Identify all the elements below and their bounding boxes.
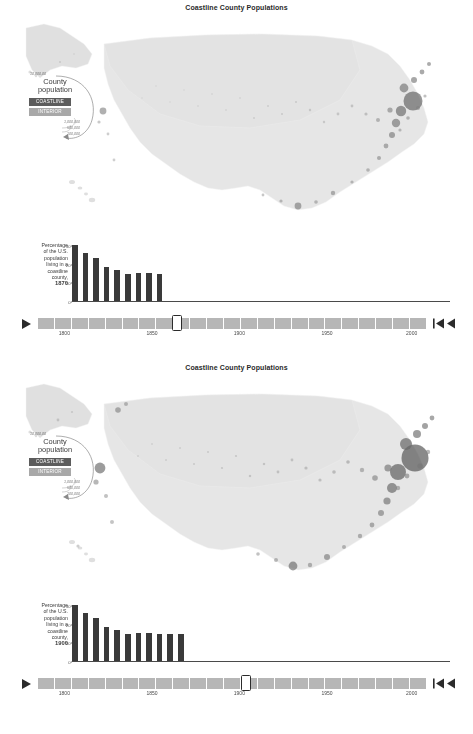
map-legend-2: 10,000,00 County population COASTLINE IN…: [22, 428, 108, 514]
bar-chart-1: Percentage of the U.S. population living…: [20, 240, 220, 312]
timeline-slider-2[interactable]: 18001850190019502000: [20, 676, 473, 702]
bar[interactable]: [72, 245, 78, 302]
y-axis-tick: [71, 624, 73, 625]
caption-line: county,: [52, 634, 68, 640]
timeline-segment[interactable]: [325, 678, 341, 689]
timeline-track-1[interactable]: [38, 318, 426, 329]
legend-swatch-coastline[interactable]: COASTLINE: [29, 458, 71, 466]
bar[interactable]: [157, 274, 163, 302]
bar[interactable]: [104, 267, 110, 302]
chart-plot-1: 0102030: [72, 240, 220, 310]
legend-swatch-interior[interactable]: INTERIOR: [29, 108, 71, 116]
timeline-segment[interactable]: [258, 318, 274, 329]
timeline-segment[interactable]: [224, 678, 240, 689]
timeline-segment[interactable]: [72, 318, 88, 329]
bar[interactable]: [104, 627, 110, 662]
bar[interactable]: [93, 258, 99, 302]
timeline-segment[interactable]: [156, 678, 172, 689]
timeline-segment[interactable]: [55, 678, 71, 689]
timeline-segment[interactable]: [275, 318, 291, 329]
timeline-segment[interactable]: [309, 678, 325, 689]
timeline-year-label: 1900: [234, 690, 245, 696]
bar[interactable]: [167, 634, 173, 662]
timeline-track-2[interactable]: [38, 678, 426, 689]
timeline-segment[interactable]: [89, 318, 105, 329]
bar-chart-2: Percentage of the U.S. population living…: [20, 600, 220, 672]
timeline-segment[interactable]: [325, 318, 341, 329]
play-icon[interactable]: [20, 318, 32, 330]
play-icon[interactable]: [20, 678, 32, 690]
timeline-segment[interactable]: [309, 318, 325, 329]
timeline-segment[interactable]: [224, 318, 240, 329]
timeline-segment[interactable]: [123, 678, 139, 689]
caption-line: Percentage: [41, 602, 68, 608]
timeline-segment[interactable]: [359, 678, 375, 689]
legend-scale-value-3: 100,000: [67, 132, 80, 136]
timeline-segment[interactable]: [106, 678, 122, 689]
bar[interactable]: [83, 253, 89, 302]
timeline-segment[interactable]: [410, 678, 426, 689]
legend-max-value: 10,000,00: [30, 432, 46, 436]
timeline-segment[interactable]: [393, 318, 409, 329]
legend-swatch-coastline[interactable]: COASTLINE: [29, 98, 71, 106]
bar[interactable]: [178, 634, 184, 662]
bar[interactable]: [136, 633, 142, 662]
timeline-segment[interactable]: [190, 318, 206, 329]
timeline-handle-2[interactable]: [241, 675, 251, 691]
bar[interactable]: [157, 634, 163, 662]
timeline-segment[interactable]: [55, 318, 71, 329]
timeline-segment[interactable]: [207, 678, 223, 689]
y-axis-tick: [71, 662, 73, 663]
legend-scale-value-2: 500,000: [67, 126, 80, 130]
timeline-segment[interactable]: [139, 318, 155, 329]
caption-line: living in a: [46, 261, 68, 267]
timeline-segment[interactable]: [123, 318, 139, 329]
timeline-segment[interactable]: [258, 678, 274, 689]
visualization-panel-1: Coastline County Populations: [0, 0, 473, 357]
timeline-segment[interactable]: [376, 678, 392, 689]
bar[interactable]: [125, 274, 131, 303]
timeline-segment[interactable]: [342, 678, 358, 689]
legend-swatch-interior[interactable]: INTERIOR: [29, 468, 71, 476]
timeline-segment[interactable]: [342, 318, 358, 329]
timeline-segment[interactable]: [89, 678, 105, 689]
timeline-segment[interactable]: [156, 318, 172, 329]
timeline-segment[interactable]: [393, 678, 409, 689]
timeline-segment[interactable]: [376, 318, 392, 329]
caption-line: of the U.S.: [43, 248, 68, 254]
timeline-segment[interactable]: [292, 678, 308, 689]
chart-plot-2: 0102030: [72, 600, 220, 670]
bar[interactable]: [72, 605, 78, 662]
timeline-segment[interactable]: [241, 318, 257, 329]
timeline-segment[interactable]: [190, 678, 206, 689]
bar[interactable]: [114, 270, 120, 302]
bar[interactable]: [114, 630, 120, 662]
timeline-segment[interactable]: [139, 678, 155, 689]
timeline-segment[interactable]: [410, 318, 426, 329]
bar[interactable]: [83, 613, 89, 662]
bar[interactable]: [146, 633, 152, 662]
bar[interactable]: [125, 634, 131, 663]
timeline-slider-1[interactable]: 18001850190019502000: [20, 316, 473, 342]
timeline-segment[interactable]: [207, 318, 223, 329]
timeline-handle-1[interactable]: [172, 315, 182, 331]
bar[interactable]: [136, 273, 142, 302]
timeline-segment[interactable]: [359, 318, 375, 329]
timeline-segment[interactable]: [173, 678, 189, 689]
skip-back-icon[interactable]: [432, 317, 462, 330]
timeline-segment[interactable]: [38, 318, 54, 329]
bar[interactable]: [93, 618, 99, 662]
legend-scale-value-1: 1,000,000: [64, 480, 80, 484]
legend-title: County population: [28, 438, 82, 455]
bar[interactable]: [146, 273, 152, 302]
skip-back-icon[interactable]: [432, 677, 462, 690]
timeline-segment[interactable]: [275, 678, 291, 689]
timeline-segment[interactable]: [292, 318, 308, 329]
timeline-segment[interactable]: [72, 678, 88, 689]
caption-line: county,: [52, 274, 68, 280]
timeline-segment[interactable]: [106, 318, 122, 329]
caption-line: coastline: [48, 268, 68, 274]
timeline-segment[interactable]: [38, 678, 54, 689]
caption-line: coastline: [48, 628, 68, 634]
caption-line: living in a: [46, 621, 68, 627]
